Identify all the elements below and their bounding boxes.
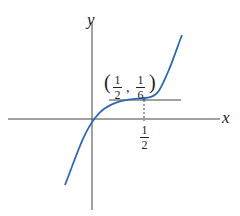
point-label-close: ) bbox=[149, 71, 156, 94]
x-tick-label: 1 2 bbox=[140, 124, 149, 151]
point-label-x-fraction: 1 2 bbox=[113, 74, 122, 101]
point-label-comma: , bbox=[126, 80, 130, 96]
x-numerator: 1 bbox=[115, 74, 121, 86]
y-numerator: 1 bbox=[138, 74, 144, 86]
tick-numerator: 1 bbox=[142, 124, 148, 136]
point-label-y-fraction: 1 6 bbox=[136, 74, 145, 101]
graph bbox=[0, 0, 240, 216]
y-denominator: 6 bbox=[138, 89, 144, 101]
cubic-curve bbox=[65, 35, 182, 185]
tick-denominator: 2 bbox=[142, 139, 148, 151]
x-axis-label: x bbox=[222, 108, 230, 128]
point-label-open: ( bbox=[104, 71, 111, 94]
y-axis-label: y bbox=[87, 10, 95, 30]
x-denominator: 2 bbox=[115, 89, 121, 101]
